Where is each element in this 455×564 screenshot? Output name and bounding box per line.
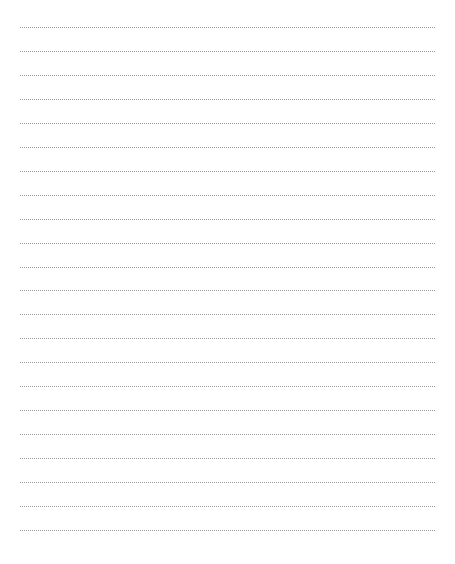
ruled-line: [20, 506, 435, 507]
ruled-line: [20, 123, 435, 124]
ruled-line: [20, 267, 435, 268]
ruled-line: [20, 314, 435, 315]
ruled-line: [20, 410, 435, 411]
ruled-line: [20, 482, 435, 483]
ruled-line: [20, 99, 435, 100]
ruled-line: [20, 434, 435, 435]
ruled-line: [20, 290, 435, 291]
ruled-line: [20, 458, 435, 459]
ruled-line: [20, 338, 435, 339]
ruled-line: [20, 51, 435, 52]
ruled-line: [20, 75, 435, 76]
ruled-line: [20, 243, 435, 244]
ruled-line: [20, 362, 435, 363]
ruled-line: [20, 530, 435, 531]
lined-paper-page: [0, 0, 455, 564]
ruled-line: [20, 195, 435, 196]
ruled-line: [20, 27, 435, 28]
ruled-line: [20, 219, 435, 220]
ruled-line: [20, 386, 435, 387]
ruled-line: [20, 171, 435, 172]
ruled-line: [20, 147, 435, 148]
